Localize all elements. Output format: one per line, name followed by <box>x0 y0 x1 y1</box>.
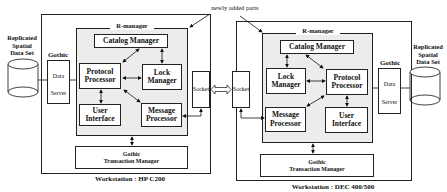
right-database-icon <box>410 67 440 105</box>
left-database-icon <box>8 59 38 97</box>
connector-lines <box>0 0 447 192</box>
socket-link-icon <box>211 85 231 94</box>
